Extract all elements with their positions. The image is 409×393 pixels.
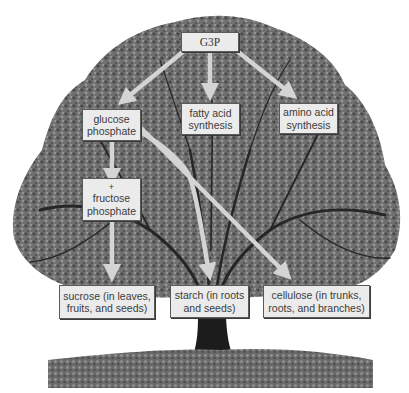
node-label-line: glucose: [93, 113, 129, 126]
node-label-line: fruits, and seeds): [67, 302, 148, 315]
node-g3p-label: G3P: [200, 36, 220, 49]
node-glucose-phosphate: glucose phosphate: [82, 109, 141, 141]
node-label-line: fatty acid: [189, 107, 231, 120]
node-label-line: cellulose (in trunks,: [272, 289, 362, 302]
node-label-line: fructose: [93, 192, 130, 205]
node-label-line: roots, and branches): [268, 302, 364, 315]
node-fatty-acid-synthesis: fatty acid synthesis: [181, 103, 240, 135]
plus-sign: +: [109, 182, 114, 192]
node-label-line: starch (in roots: [175, 289, 244, 302]
node-amino-acid-synthesis: amino acid synthesis: [279, 103, 338, 134]
node-cellulose: cellulose (in trunks, roots, and branche…: [263, 285, 370, 318]
node-label-line: phosphate: [87, 125, 136, 138]
tree-background-image: [0, 0, 409, 393]
node-fructose-phosphate: + fructose phosphate: [82, 178, 141, 221]
node-label-line: synthesis: [287, 119, 331, 132]
node-sucrose: sucrose (in leaves, fruits, and seeds): [59, 285, 155, 319]
node-label-line: phosphate: [87, 205, 136, 218]
node-label-line: amino acid: [283, 106, 334, 119]
diagram-canvas: G3P glucose phosphate fatty acid synthes…: [0, 0, 409, 393]
node-label-line: and seeds): [184, 302, 236, 315]
node-label-line: synthesis: [189, 119, 233, 132]
node-starch: starch (in roots and seeds): [170, 285, 249, 318]
ground-grass: [48, 349, 373, 388]
node-g3p: G3P: [181, 32, 239, 52]
node-label-line: sucrose (in leaves,: [63, 290, 151, 303]
